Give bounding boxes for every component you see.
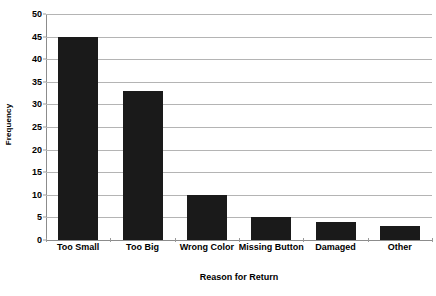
y-tick-label-15: 15 [32,167,42,177]
bar [123,91,163,240]
y-tick-label-35: 35 [32,77,42,87]
x-tick-mark [110,238,111,242]
x-tick-mark [303,238,304,242]
y-tick-label-20: 20 [32,145,42,155]
x-tick-label: Other [388,242,412,252]
y-axis-tick-labels: 05101520253035404550 [18,0,46,248]
bar [187,195,227,240]
x-tick-label: Too Small [57,242,99,252]
y-tick-label-5: 5 [37,212,42,222]
x-tick-mark [175,238,176,242]
x-axis-title: Reason for Return [46,272,432,282]
y-tick-label-0: 0 [37,235,42,245]
x-tick-mark [46,238,47,242]
bar [380,226,420,240]
bars-layer [46,14,432,240]
y-tick-label-30: 30 [32,99,42,109]
bar-chart: Frequency 05101520253035404550 Too Small… [0,0,436,296]
y-axis-title-label: Frequency [5,103,14,144]
y-tick-label-10: 10 [32,190,42,200]
x-tick-mark [432,238,433,242]
x-tick-label: Wrong Color [180,242,234,252]
bar [316,222,356,240]
x-tick-label: Damaged [315,242,356,252]
y-tick-label-25: 25 [32,122,42,132]
x-axis-tick-labels: Too SmallToo BigWrong ColorMissing Butto… [46,242,432,258]
bar [251,217,291,240]
x-tick-label: Missing Button [239,242,304,252]
y-tick-label-50: 50 [32,9,42,19]
y-axis-title: Frequency [0,0,18,248]
x-tick-mark [239,238,240,242]
bar [58,37,98,240]
plot-area [46,14,432,240]
y-tick-label-40: 40 [32,54,42,64]
y-tick-label-45: 45 [32,32,42,42]
x-tick-label: Too Big [126,242,159,252]
x-tick-mark [368,238,369,242]
